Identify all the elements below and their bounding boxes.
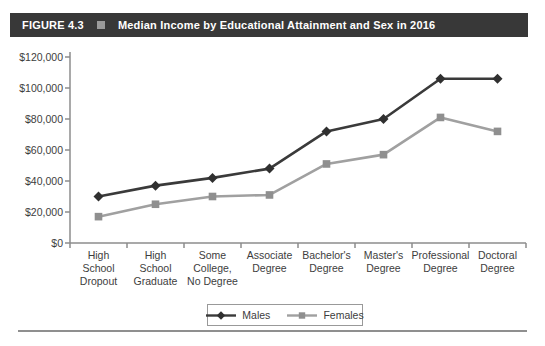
x-tick-label: School bbox=[139, 262, 171, 274]
line-chart: $0$20,000$40,000$60,000$80,000$100,000$1… bbox=[0, 40, 545, 302]
square-marker bbox=[95, 213, 103, 221]
series-females bbox=[95, 114, 502, 221]
legend-item-males: Males bbox=[206, 310, 270, 321]
figure-title: Median Income by Educational Attainment … bbox=[118, 19, 435, 31]
square-marker bbox=[494, 128, 502, 136]
diamond-marker bbox=[217, 311, 225, 319]
x-tick-label: No Degree bbox=[187, 275, 238, 287]
x-tick-label: School bbox=[82, 262, 114, 274]
x-tick-label: High bbox=[88, 249, 110, 261]
legend-label: Females bbox=[323, 310, 363, 321]
square-line-sample-icon bbox=[287, 310, 317, 321]
x-tick-label: Bachelor's bbox=[302, 249, 351, 261]
chart-legend: MalesFemales bbox=[207, 304, 363, 326]
square-bullet-icon bbox=[97, 21, 105, 29]
x-tick-label: Associate bbox=[247, 249, 293, 261]
diamond-marker bbox=[493, 74, 503, 84]
square-marker bbox=[152, 200, 160, 208]
figure-4-3: FIGURE 4.3 Median Income by Educational … bbox=[0, 0, 545, 346]
figure-header: FIGURE 4.3 Median Income by Educational … bbox=[10, 13, 528, 37]
y-tick-label: $0 bbox=[51, 237, 63, 249]
series-males bbox=[94, 74, 503, 202]
square-marker bbox=[380, 151, 388, 159]
y-tick-label: $40,000 bbox=[25, 175, 63, 187]
diamond-marker bbox=[208, 173, 218, 183]
bottom-divider bbox=[18, 330, 527, 332]
x-tick-label: Degree bbox=[252, 262, 287, 274]
axes bbox=[65, 52, 526, 248]
diamond-line-sample-icon bbox=[206, 310, 236, 321]
diamond-marker bbox=[151, 181, 161, 191]
x-tick-label: Dropout bbox=[80, 275, 117, 287]
x-tick-label: Professional bbox=[412, 249, 470, 261]
y-axis-labels: $0$20,000$40,000$60,000$80,000$100,000$1… bbox=[19, 51, 63, 249]
x-tick-label: College, bbox=[193, 262, 232, 274]
y-tick-label: $120,000 bbox=[19, 51, 63, 63]
square-marker bbox=[299, 312, 305, 318]
y-tick-label: $100,000 bbox=[19, 82, 63, 94]
x-axis-labels: HighSchoolDropoutHighSchoolGraduateSomeC… bbox=[80, 249, 517, 287]
x-tick-label: Degree bbox=[423, 262, 458, 274]
x-tick-label: Degree bbox=[480, 262, 515, 274]
x-tick-label: Degree bbox=[366, 262, 401, 274]
y-tick-label: $20,000 bbox=[25, 206, 63, 218]
x-tick-label: Master's bbox=[364, 249, 403, 261]
x-tick-label: Doctoral bbox=[478, 249, 517, 261]
figure-number: FIGURE 4.3 bbox=[22, 19, 84, 31]
square-marker bbox=[209, 193, 217, 201]
y-tick-label: $80,000 bbox=[25, 113, 63, 125]
legend-label: Males bbox=[242, 310, 270, 321]
square-marker bbox=[323, 160, 331, 168]
x-tick-label: High bbox=[145, 249, 167, 261]
x-tick-label: Degree bbox=[309, 262, 344, 274]
x-tick-label: Graduate bbox=[134, 275, 178, 287]
diamond-marker bbox=[94, 192, 104, 202]
square-marker bbox=[266, 191, 274, 199]
x-tick-label: Some bbox=[199, 249, 227, 261]
legend-item-females: Females bbox=[287, 310, 363, 321]
square-marker bbox=[437, 114, 445, 122]
y-tick-label: $60,000 bbox=[25, 144, 63, 156]
